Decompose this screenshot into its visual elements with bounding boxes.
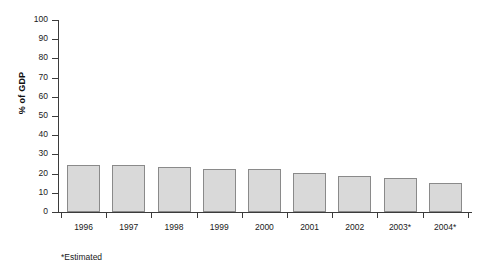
y-tick-label: 60 bbox=[39, 91, 48, 102]
x-tick-label: 2003* bbox=[377, 222, 422, 233]
x-tick bbox=[423, 213, 424, 218]
x-tick-label: 2000 bbox=[242, 222, 287, 233]
x-tick-label: 2002 bbox=[332, 222, 377, 233]
x-tick-label: 1997 bbox=[106, 222, 151, 233]
y-tick-label: 10 bbox=[39, 187, 48, 198]
x-tick bbox=[61, 213, 62, 218]
x-tick-label: 1998 bbox=[151, 222, 196, 233]
x-axis-line bbox=[58, 212, 472, 213]
x-tick bbox=[287, 213, 288, 218]
bar bbox=[429, 183, 462, 212]
bar bbox=[158, 167, 191, 213]
y-tick: 0 bbox=[52, 212, 58, 213]
bar bbox=[338, 176, 371, 212]
chart-footnote: *Estimated bbox=[61, 252, 102, 263]
y-axis-title: % of GDP bbox=[17, 53, 27, 133]
y-tick-label: 30 bbox=[39, 148, 48, 159]
y-tick-label: 90 bbox=[39, 33, 48, 44]
y-tick-label: 40 bbox=[39, 129, 48, 140]
y-tick-label: 70 bbox=[39, 72, 48, 83]
bar bbox=[112, 165, 145, 212]
x-tick bbox=[468, 213, 469, 218]
x-tick bbox=[332, 213, 333, 218]
y-tick-label: 100 bbox=[34, 14, 48, 25]
y-tick-label: 0 bbox=[43, 206, 48, 217]
x-tick-label: 2001 bbox=[287, 222, 332, 233]
x-tick-label: 2004* bbox=[423, 222, 468, 233]
x-tick bbox=[377, 213, 378, 218]
x-tick-label: 1996 bbox=[61, 222, 106, 233]
x-tick bbox=[106, 213, 107, 218]
y-tick-label: 80 bbox=[39, 52, 48, 63]
bar bbox=[293, 173, 326, 212]
x-tick-label: 1999 bbox=[197, 222, 242, 233]
x-tick bbox=[151, 213, 152, 218]
bar bbox=[67, 165, 100, 212]
bar bbox=[203, 169, 236, 212]
bar-chart-figure: % of GDP 0102030405060708090100 19961997… bbox=[0, 0, 498, 280]
bar bbox=[248, 169, 281, 212]
y-tick-label: 50 bbox=[39, 110, 48, 121]
x-tick bbox=[197, 213, 198, 218]
x-tick bbox=[242, 213, 243, 218]
y-tick-label: 20 bbox=[39, 168, 48, 179]
plot-area bbox=[58, 20, 471, 212]
bar bbox=[384, 178, 417, 212]
